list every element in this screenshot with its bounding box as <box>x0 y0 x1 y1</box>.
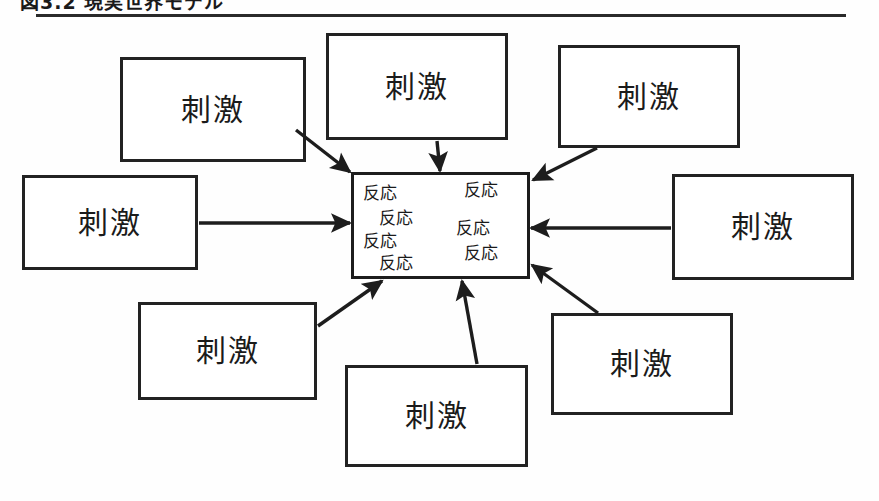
response-label: 反応 <box>363 185 397 202</box>
stimulus-box-bottom-right: 刺激 <box>551 313 733 415</box>
stimulus-label: 刺激 <box>731 212 795 242</box>
stimulus-label: 刺激 <box>78 208 142 238</box>
response-label: 反応 <box>379 210 413 227</box>
response-label: 反応 <box>379 255 413 272</box>
stimulus-box-bottom-center: 刺激 <box>345 365 528 467</box>
stimulus-label: 刺激 <box>610 349 674 379</box>
figure-page: 図3.2 現実世界モデル 刺激刺激刺激刺激刺激刺激刺激刺激 反応反応反応反応反応… <box>0 0 879 501</box>
response-label: 反応 <box>363 233 397 250</box>
figure-caption: 図3.2 現実世界モデル <box>20 0 224 14</box>
stimulus-box-top-left: 刺激 <box>120 57 306 162</box>
horizontal-rule <box>36 14 846 17</box>
response-label: 反応 <box>456 220 490 237</box>
arrow-bottom-right-to-center <box>532 265 598 313</box>
stimulus-box-bottom-left: 刺激 <box>138 302 317 400</box>
response-label: 反応 <box>464 182 498 199</box>
stimulus-box-top-center: 刺激 <box>326 33 508 140</box>
stimulus-label: 刺激 <box>385 72 449 102</box>
arrow-bottom-left-to-center <box>318 281 382 326</box>
stimulus-box-middle-left: 刺激 <box>22 175 198 270</box>
stimulus-label: 刺激 <box>181 95 245 125</box>
arrow-top-right-to-center <box>533 148 597 180</box>
stimulus-label: 刺激 <box>405 401 469 431</box>
response-label: 反応 <box>464 245 498 262</box>
stimulus-label: 刺激 <box>196 336 260 366</box>
arrow-top-center-to-center <box>437 141 440 171</box>
stimulus-box-middle-right: 刺激 <box>672 174 854 280</box>
response-box: 反応反応反応反応反応反応反応 <box>351 172 530 279</box>
stimulus-box-top-right: 刺激 <box>558 45 740 148</box>
stimulus-label: 刺激 <box>617 82 681 112</box>
arrow-bottom-center-to-center <box>462 281 477 364</box>
